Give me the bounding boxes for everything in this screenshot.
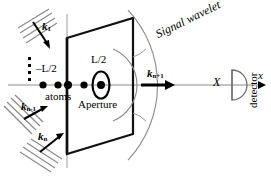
diagram-canvas bbox=[0, 0, 271, 177]
atom-dot bbox=[64, 81, 72, 89]
label-aperture: Aperture bbox=[78, 99, 117, 110]
ellipsis-dot bbox=[28, 71, 31, 74]
atom-dot bbox=[54, 81, 61, 88]
incoming-wavefront-top bbox=[18, 9, 57, 43]
label-kn-plus-1: kn+1 bbox=[147, 68, 164, 80]
physics-diagram-figure: k1 kn-1 kn –L/2 atoms L/2 Aperture Signa… bbox=[0, 0, 271, 177]
ellipsis-dot bbox=[28, 64, 31, 67]
wavelet-arc-fragment-top bbox=[133, 49, 146, 57]
aperture-center-atom bbox=[97, 81, 105, 89]
label-kn-minus-1: kn-1 bbox=[21, 101, 36, 113]
label-plus-half-L: L/2 bbox=[91, 54, 106, 65]
atom-dot bbox=[80, 81, 87, 88]
label-atoms: atoms bbox=[45, 91, 71, 102]
ellipsis-dot bbox=[28, 57, 31, 60]
incoming-wavefront-bottom bbox=[20, 139, 62, 172]
label-k1: k1 bbox=[42, 21, 51, 33]
label-x-axis: x bbox=[258, 70, 263, 81]
x-axis-arrow bbox=[258, 81, 266, 89]
atom-dot bbox=[39, 81, 46, 88]
label-minus-half-L: –L/2 bbox=[36, 63, 57, 74]
label-kn: kn bbox=[38, 131, 47, 143]
ellipsis-dot bbox=[28, 78, 31, 81]
wavelet-arc-fragment-bottom bbox=[133, 113, 146, 121]
label-big-X: X bbox=[213, 76, 220, 88]
